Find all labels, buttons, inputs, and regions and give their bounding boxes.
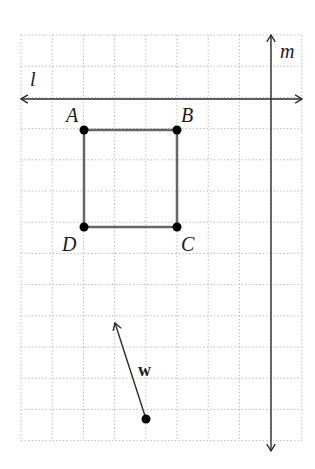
line-l: l — [21, 68, 302, 103]
square-outline — [84, 130, 177, 227]
vertex-label-B: B — [181, 104, 193, 126]
vertex-label-C: C — [181, 233, 195, 255]
vector-label-w: w — [138, 360, 151, 380]
line-label-m: m — [280, 40, 294, 62]
vertex-label-A: A — [64, 104, 79, 126]
vertex-point-C — [173, 223, 182, 232]
vector-w: w — [113, 323, 151, 424]
vertex-point-A — [80, 126, 89, 135]
line-label-l: l — [30, 68, 36, 90]
vertex-point-B — [173, 126, 182, 135]
vector-tail-point — [142, 415, 151, 424]
vertex-label-D: D — [61, 233, 77, 255]
square-abcd: ABCD — [61, 104, 195, 255]
vertex-point-D — [80, 223, 89, 232]
diagram-canvas: lm ABCD w — [0, 0, 315, 469]
